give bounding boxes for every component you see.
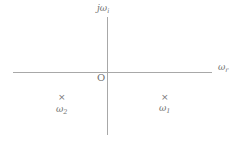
complex-plane-diagram: jωi ωr O × ω1 × ω2 — [0, 0, 233, 141]
omega1-label-sub: 1 — [166, 107, 170, 115]
real-axis-label: ωr — [218, 62, 228, 75]
omega2-label-sub: 2 — [63, 108, 67, 116]
imaginary-axis-line — [107, 17, 108, 135]
real-axis-label-sub: r — [225, 66, 228, 74]
imaginary-axis-label-base: jω — [97, 3, 107, 13]
real-axis-line — [13, 72, 212, 73]
frequency-point-label-omega1: ω1 — [159, 103, 170, 116]
frequency-point-label-omega2: ω2 — [56, 104, 67, 117]
imaginary-axis-label: jωi — [97, 3, 109, 16]
origin-label: O — [97, 73, 105, 83]
frequency-point-marker-omega2: × — [58, 93, 66, 102]
frequency-point-marker-omega1: × — [161, 93, 169, 102]
imaginary-axis-label-sub: i — [107, 7, 109, 15]
